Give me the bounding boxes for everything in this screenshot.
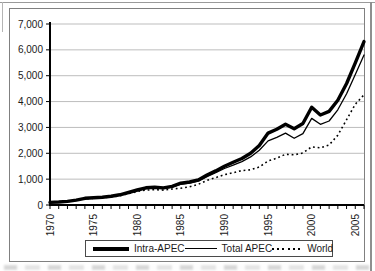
x-tick-label: 1975 [88,214,99,237]
x-tick-label: 1990 [219,214,230,237]
y-tick-label: 1,000 [18,174,43,185]
cropped-caption-artifact [4,265,371,270]
legend-item-intra-apec: Intra-APEC [93,243,185,254]
line-chart-plot: 01,0002,0003,0004,0005,0006,0007,0001970… [0,0,375,271]
y-tick-label: 6,000 [18,44,43,55]
y-tick-label: 0 [37,200,43,211]
legend-label-intra-apec: Intra-APEC [134,243,185,254]
x-tick-label: 2000 [306,214,317,237]
chart-screenshot: 01,0002,0003,0004,0005,0006,0007,0001970… [0,0,375,271]
legend-item-world: World [272,243,333,254]
x-tick-label: 1970 [45,214,56,237]
y-tick-label: 2,000 [18,148,43,159]
legend-label-total-apec: Total APEC [222,243,273,254]
x-tick-label: 1980 [132,214,143,237]
thick-solid-line-icon [93,247,129,251]
legend-label-world: World [307,243,333,254]
y-tick-label: 5,000 [18,70,43,81]
y-tick-label: 7,000 [18,19,43,30]
x-tick-label: 1985 [175,214,186,237]
y-tick-label: 4,000 [18,96,43,107]
legend: Intra-APEC Total APEC World [85,240,333,257]
dotted-line-icon [272,248,302,250]
x-tick-label: 1995 [263,214,274,237]
legend-item-total-apec: Total APEC [185,243,273,254]
series-line-total-apec [50,55,364,202]
y-tick-label: 3,000 [18,122,43,133]
x-tick-label: 2005 [350,214,361,237]
thin-solid-line-icon [185,248,217,249]
